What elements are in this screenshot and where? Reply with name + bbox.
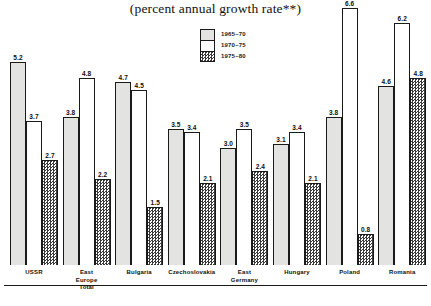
bar-column: 3.0 <box>220 0 236 265</box>
bar-column: 2.7 <box>42 0 58 265</box>
bar-column: 3.5 <box>236 0 252 265</box>
bar-value-label: 3.8 <box>66 109 75 116</box>
bar-column: 4.8 <box>410 0 426 265</box>
bar-group-bars: 4.74.51.5 <box>115 0 163 265</box>
category-label: Hungary <box>284 269 309 277</box>
bar <box>10 62 26 265</box>
bar-group: 4.74.51.5Bulgaria <box>115 0 163 265</box>
bar-column: 1.5 <box>147 0 163 265</box>
bar <box>184 132 200 265</box>
bar-group: 3.53.42.1Czechoslovakia <box>168 0 216 265</box>
bar <box>305 183 321 265</box>
bar <box>115 82 131 265</box>
bar-value-label: 4.6 <box>382 78 391 85</box>
bar-column: 4.7 <box>115 0 131 265</box>
bar-column: 6.6 <box>342 0 358 265</box>
category-label: East Europe Total <box>75 269 99 292</box>
bar-group-bars: 3.03.52.4 <box>220 0 268 265</box>
bar <box>394 23 410 265</box>
bar-column: 3.7 <box>26 0 42 265</box>
category-label: Czechoslovakia <box>168 269 215 277</box>
bar <box>26 121 42 265</box>
bar <box>378 86 394 265</box>
category-label: East Germany <box>231 269 258 284</box>
bar-column: 2.4 <box>252 0 268 265</box>
bar-value-label: 0.8 <box>361 226 370 233</box>
bar-value-label: 3.8 <box>329 109 338 116</box>
bar-chart: (percent annual growth rate**) 1965–7019… <box>0 0 431 306</box>
category-label: Poland <box>339 269 360 277</box>
bar <box>200 183 216 265</box>
bar-group: 5.23.72.7USSR <box>10 0 58 265</box>
bar-group: 3.03.52.4East Germany <box>220 0 268 265</box>
bar-value-label: 3.5 <box>171 121 180 128</box>
bar-column: 6.2 <box>394 0 410 265</box>
bar-group-bars: 4.66.24.8 <box>378 0 426 265</box>
axis-baseline <box>4 285 427 286</box>
bar-column: 2.2 <box>95 0 111 265</box>
bar-value-label: 3.1 <box>276 136 285 143</box>
plot-area: 5.23.72.7USSR3.84.82.2East Europe Total4… <box>0 0 431 286</box>
bar-value-label: 4.8 <box>82 70 91 77</box>
bar-column: 4.5 <box>131 0 147 265</box>
bar <box>236 129 252 266</box>
bar-value-label: 4.5 <box>135 82 144 89</box>
bar-value-label: 2.2 <box>98 171 107 178</box>
bar <box>289 132 305 265</box>
bar-value-label: 3.0 <box>224 140 233 147</box>
bar-column: 3.1 <box>273 0 289 265</box>
bar <box>252 171 268 265</box>
bar-column: 2.1 <box>200 0 216 265</box>
bar-column: 3.4 <box>289 0 305 265</box>
bar <box>220 148 236 265</box>
bar-column: 5.2 <box>10 0 26 265</box>
bar-group: 3.84.82.2East Europe Total <box>63 0 111 265</box>
bar-column: 3.5 <box>168 0 184 265</box>
bar-value-label: 6.6 <box>345 0 354 7</box>
bar-group-bars: 5.23.72.7 <box>10 0 58 265</box>
bar-value-label: 6.2 <box>398 15 407 22</box>
bar-group-bars: 3.84.82.2 <box>63 0 111 265</box>
bar-value-label: 3.7 <box>29 113 38 120</box>
bar <box>410 78 426 265</box>
bar-column: 0.8 <box>358 0 374 265</box>
category-label: Romania <box>389 269 415 277</box>
bar-value-label: 4.7 <box>119 74 128 81</box>
bar <box>131 90 147 266</box>
bar <box>147 207 163 266</box>
bar-value-label: 2.1 <box>308 175 317 182</box>
bar-value-label: 3.4 <box>187 124 196 131</box>
bar <box>79 78 95 265</box>
bar-group-bars: 3.86.60.8 <box>326 0 374 265</box>
bar <box>273 144 289 265</box>
bar-column: 2.1 <box>305 0 321 265</box>
bar-value-label: 5.2 <box>13 54 22 61</box>
bar <box>342 8 358 265</box>
bar-column: 4.6 <box>378 0 394 265</box>
bar-value-label: 2.4 <box>256 163 265 170</box>
bar-group-bars: 3.53.42.1 <box>168 0 216 265</box>
bar-value-label: 3.4 <box>292 124 301 131</box>
category-label: Bulgaria <box>127 269 152 277</box>
bar-group: 4.66.24.8Romania <box>378 0 426 265</box>
bar <box>168 129 184 266</box>
bar-group-bars: 3.13.42.1 <box>273 0 321 265</box>
bar-value-label: 2.7 <box>45 152 54 159</box>
bar-value-label: 3.5 <box>240 121 249 128</box>
bar <box>326 117 342 265</box>
bar-column: 4.8 <box>79 0 95 265</box>
bar <box>42 160 58 265</box>
bar <box>63 117 79 265</box>
category-label: USSR <box>25 269 42 277</box>
bar-column: 3.8 <box>326 0 342 265</box>
bar-group: 3.86.60.8Poland <box>326 0 374 265</box>
bar-group: 3.13.42.1Hungary <box>273 0 321 265</box>
bar-column: 3.4 <box>184 0 200 265</box>
bar-value-label: 4.8 <box>414 70 423 77</box>
bar <box>358 234 374 265</box>
bar-value-label: 2.1 <box>203 175 212 182</box>
bar-column: 3.8 <box>63 0 79 265</box>
bar <box>95 179 111 265</box>
bar-value-label: 1.5 <box>151 199 160 206</box>
